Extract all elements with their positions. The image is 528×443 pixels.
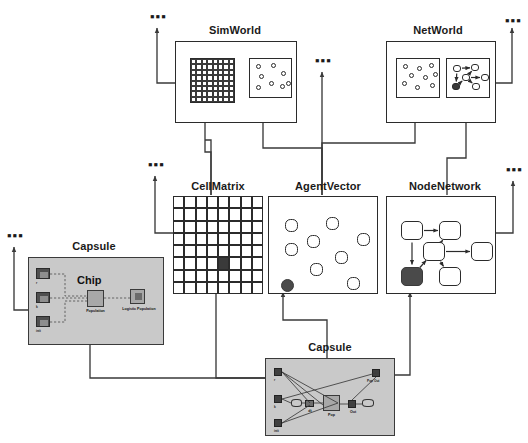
grid-cell[interactable] [207,208,218,220]
grid-cell[interactable] [196,282,207,294]
grid-cell[interactable] [229,208,240,220]
grid-cell[interactable] [173,196,184,208]
grid-cell[interactable] [184,208,195,220]
agent-dot[interactable] [417,66,422,71]
grid-cell[interactable] [241,233,252,245]
grid-cell[interactable] [252,282,263,294]
agent-dot[interactable] [310,263,323,276]
grid-cell[interactable] [252,208,263,220]
grid-cell[interactable] [184,233,195,245]
graph-node[interactable] [401,221,423,240]
grid-cell[interactable] [241,208,252,220]
grid-cell[interactable] [207,196,218,208]
agent-dot[interactable] [285,219,298,232]
grid-cell[interactable] [229,97,234,102]
grid-cell[interactable] [196,270,207,282]
graph-node[interactable] [471,64,479,71]
grid-cell[interactable] [173,282,184,294]
grid-cell[interactable] [218,196,229,208]
grid-cell[interactable] [241,196,252,208]
grid-cell[interactable] [252,196,263,208]
grid-cell[interactable] [184,282,195,294]
graph-node[interactable] [471,242,493,261]
agent-dot[interactable] [326,217,339,230]
grid-cell[interactable] [184,257,195,269]
grid-cell[interactable] [252,221,263,233]
grid-cell[interactable] [184,196,195,208]
grid-cell[interactable] [218,270,229,282]
networld-agent-cloud-panel[interactable] [396,58,440,98]
agent-dot[interactable] [259,74,264,79]
agent-dot[interactable] [415,85,420,90]
graph-node[interactable] [462,74,470,81]
grid-cell[interactable] [229,257,240,269]
graph-node[interactable] [453,65,461,72]
agent-dot[interactable] [357,233,370,246]
grid-cell[interactable] [218,233,229,245]
grid-cell[interactable] [229,245,240,257]
grid-cell[interactable] [229,233,240,245]
grid-cell[interactable] [196,208,207,220]
grid-cell[interactable] [241,270,252,282]
grid-cell[interactable] [207,233,218,245]
grid-cell[interactable] [173,208,184,220]
grid-cell[interactable] [241,221,252,233]
agent-dot[interactable] [335,251,348,264]
grid-cell[interactable] [184,270,195,282]
graph-node[interactable] [481,74,489,81]
grid-cell[interactable] [241,245,252,257]
grid-cell[interactable] [184,221,195,233]
graph-node[interactable] [423,242,445,261]
grid-cell[interactable] [207,270,218,282]
grid-cell[interactable] [218,208,229,220]
grid-cell[interactable] [173,233,184,245]
grid-cell[interactable] [241,257,252,269]
grid-cell[interactable] [207,257,218,269]
simworld-container[interactable] [175,41,297,123]
grid-cell[interactable] [252,257,263,269]
grid-cell[interactable] [218,282,229,294]
agent-dot[interactable] [402,81,407,86]
grid-cell[interactable] [229,196,240,208]
agent-dot[interactable] [433,72,438,77]
networld-node-graph-panel[interactable] [446,58,490,98]
grid-cell[interactable] [173,270,184,282]
grid-cell[interactable] [196,245,207,257]
grid-cell[interactable] [229,282,240,294]
grid-cell[interactable] [196,257,207,269]
agent-dot[interactable] [429,63,434,68]
grid-cell[interactable] [196,196,207,208]
grid-cell[interactable] [173,245,184,257]
agent-dot[interactable] [423,75,428,80]
grid-cell-active[interactable] [218,257,229,269]
graph-node[interactable] [439,221,461,240]
agent-dot[interactable] [347,277,360,290]
agent-dot[interactable] [307,235,320,248]
grid-cell[interactable] [218,245,229,257]
grid-cell[interactable] [196,233,207,245]
agent-dot[interactable] [256,85,261,90]
nodenetwork-container[interactable] [386,196,496,294]
agent-dot[interactable] [256,64,261,69]
graph-node[interactable] [439,267,461,286]
grid-cell[interactable] [218,221,229,233]
grid-cell[interactable] [229,221,240,233]
grid-cell[interactable] [252,233,263,245]
agent-dot[interactable] [280,84,285,89]
networld-container[interactable] [386,41,496,123]
agent-dot[interactable] [403,64,408,69]
grid-cell[interactable] [252,245,263,257]
agent-dot[interactable] [271,63,276,68]
cellmatrix-container[interactable] [173,196,263,294]
grid-cell[interactable] [207,221,218,233]
agent-dot[interactable] [269,81,274,86]
capsule-left-container[interactable]: Chip r k init Population Logistic Popula… [28,257,164,345]
grid-cell[interactable] [196,221,207,233]
agent-dot[interactable] [281,71,286,76]
grid-cell[interactable] [207,245,218,257]
grid-cell[interactable] [173,221,184,233]
simworld-agent-cloud-panel[interactable] [249,58,292,98]
simworld-cell-grid-panel[interactable] [190,58,235,103]
grid-cell[interactable] [184,245,195,257]
graph-node-highlighted[interactable] [401,267,423,286]
